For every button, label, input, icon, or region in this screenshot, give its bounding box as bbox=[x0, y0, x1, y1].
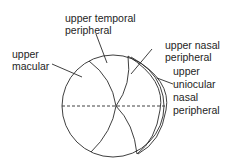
label-line: peripheral bbox=[165, 51, 220, 63]
label-line: macular bbox=[12, 60, 49, 72]
label-line: peripheral bbox=[65, 24, 136, 36]
label-upper-macular: upper macular bbox=[12, 48, 49, 72]
label-line: upper bbox=[173, 65, 220, 78]
label-line: peripheral bbox=[173, 104, 220, 117]
temporal-nasal-boundary-upper bbox=[116, 56, 129, 106]
label-line: upper bbox=[12, 48, 49, 60]
label-line: uniocular bbox=[173, 78, 220, 91]
label-upper-nasal-peripheral: upper nasal peripheral bbox=[165, 39, 220, 63]
label-line: upper temporal bbox=[65, 12, 136, 24]
label-line: upper nasal bbox=[165, 39, 220, 51]
macular-boundary-lower bbox=[91, 106, 116, 152]
nasal-crescent-inner bbox=[128, 56, 161, 154]
temporal-nasal-boundary-lower bbox=[116, 106, 137, 154]
label-upper-temporal-peripheral: upper temporal peripheral bbox=[65, 12, 136, 36]
macular-boundary-upper bbox=[89, 61, 116, 106]
leader-upper-macular bbox=[52, 64, 82, 77]
leader-upper-temporal-peripheral bbox=[96, 34, 107, 63]
label-upper-uniocular-nasal-peripheral: upper uniocular nasal peripheral bbox=[173, 65, 220, 117]
nasal-crescent-outer bbox=[131, 57, 167, 154]
label-line: nasal bbox=[173, 91, 220, 104]
